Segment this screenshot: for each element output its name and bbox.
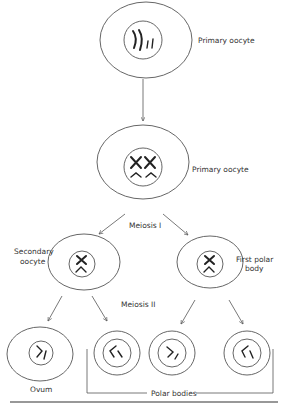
arrow-to-ovum bbox=[48, 296, 62, 321]
secondary-oocyte-label-line2: oocyte bbox=[20, 257, 46, 266]
chromatid-icon bbox=[110, 346, 122, 357]
polar-bodies-label: Polar bodies bbox=[151, 389, 197, 398]
arrow-to-first-polar-body bbox=[163, 214, 188, 235]
arrow-to-polar-body-a bbox=[92, 296, 107, 321]
secondary-oocyte-cell bbox=[48, 234, 120, 290]
ovum-label: Ovum bbox=[30, 385, 52, 394]
first-polar-body-cell bbox=[177, 236, 243, 288]
arrow-to-polar-body-c bbox=[229, 300, 243, 324]
chromatid-icon bbox=[242, 346, 253, 358]
first-polar-body-label-line2: body bbox=[245, 264, 264, 273]
primary-oocyte-label-1: Primary oocyte bbox=[198, 36, 255, 45]
tetrad-chromosomes-icon bbox=[131, 157, 156, 177]
chromatid-icon bbox=[37, 346, 46, 359]
primary-oocyte-cell-2 bbox=[97, 125, 189, 199]
chromosomes-icon bbox=[133, 30, 153, 50]
polar-bodies-bracket bbox=[87, 349, 273, 393]
primary-oocyte-label-2: Primary oocyte bbox=[192, 165, 249, 174]
chromatid-icon bbox=[167, 347, 178, 359]
polar-body-cell-c bbox=[224, 331, 270, 375]
ovum-cell bbox=[7, 327, 73, 381]
meiosis-2-label: Meiosis II bbox=[121, 300, 155, 309]
primary-oocyte-cell-1 bbox=[100, 2, 192, 78]
polar-body-cell-a bbox=[94, 331, 140, 375]
dyad-chromosome-icon bbox=[204, 256, 214, 272]
meiosis-1-label: Meiosis I bbox=[129, 221, 161, 230]
secondary-oocyte-label-line1: Secondary bbox=[14, 247, 54, 256]
arrow-to-polar-body-b bbox=[181, 300, 195, 324]
polar-body-cell-b bbox=[149, 331, 195, 375]
dyad-chromosome-icon bbox=[76, 256, 86, 272]
arrow-to-secondary-oocyte bbox=[99, 214, 125, 234]
oogenesis-diagram: Primary oocyte Primary oocyte Meiosis I … bbox=[0, 0, 288, 403]
first-polar-body-label-line1: First polar bbox=[236, 255, 274, 264]
